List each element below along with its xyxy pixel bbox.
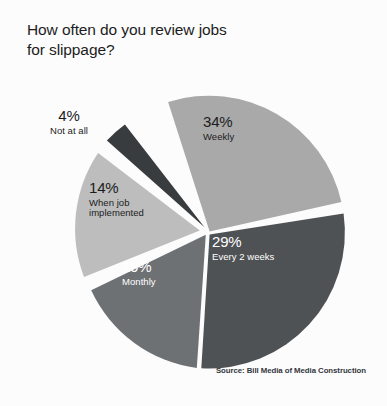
- slice-label-every-2-weeks: 29% Every 2 weeks: [212, 234, 274, 262]
- pie-chart-svg: [0, 0, 387, 406]
- slice-label-when-job-implemented: 14% When job implemented: [89, 180, 144, 219]
- slice-name-weekly: Weekly: [203, 132, 234, 143]
- slice-name-when-job-implemented: When job implemented: [89, 198, 144, 219]
- slice-label-monthly: 19% Monthly: [122, 259, 156, 287]
- slice-name-not-at-all: Not at all: [30, 126, 108, 137]
- slice-name-every-2-weeks: Every 2 weeks: [212, 252, 274, 263]
- source-attribution: Source: Bill Media of Media Construction: [216, 366, 366, 375]
- pie-slice-weekly[interactable]: [168, 96, 341, 232]
- pie-chart-canvas: 34% Weekly 29% Every 2 weeks 19% Monthly…: [0, 0, 387, 406]
- slice-label-weekly: 34% Weekly: [203, 114, 234, 142]
- slice-value-not-at-all: 4%: [30, 108, 108, 125]
- slice-value-weekly: 34%: [203, 114, 234, 131]
- slice-value-monthly: 19%: [122, 259, 156, 276]
- slice-label-not-at-all: 4% Not at all: [30, 108, 108, 136]
- pie-chart-figure: How often do you review jobs for slippag…: [0, 0, 387, 406]
- slice-name-monthly: Monthly: [122, 277, 156, 288]
- slice-value-every-2-weeks: 29%: [212, 234, 274, 251]
- slice-value-when-job-implemented: 14%: [89, 180, 144, 197]
